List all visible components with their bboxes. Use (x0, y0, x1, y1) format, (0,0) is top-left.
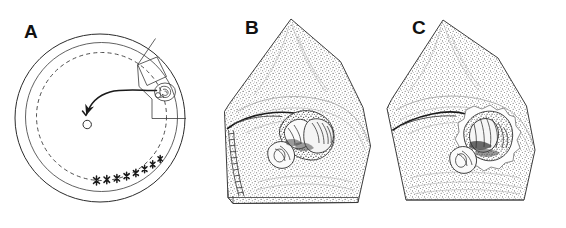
outer-circle (15, 34, 185, 202)
dashed-circle (37, 53, 167, 181)
panel-c: C (380, 0, 566, 228)
panel-b: B (200, 0, 386, 228)
panel-a: A (0, 0, 200, 228)
panel-c-graphic (380, 0, 566, 228)
panel-label-b: B (245, 18, 259, 37)
arrow-tail-tick (83, 111, 87, 116)
inner-circle (26, 43, 178, 192)
panel-b-graphic (200, 0, 386, 228)
cross-marks (94, 155, 163, 185)
small-open-circle (83, 120, 91, 128)
figure-root: A (0, 0, 566, 228)
organism-in-circle (155, 83, 176, 101)
panel-label-c: C (412, 18, 426, 37)
stippled-tissue-wedge (225, 19, 371, 204)
panel-label-a: A (24, 22, 38, 41)
